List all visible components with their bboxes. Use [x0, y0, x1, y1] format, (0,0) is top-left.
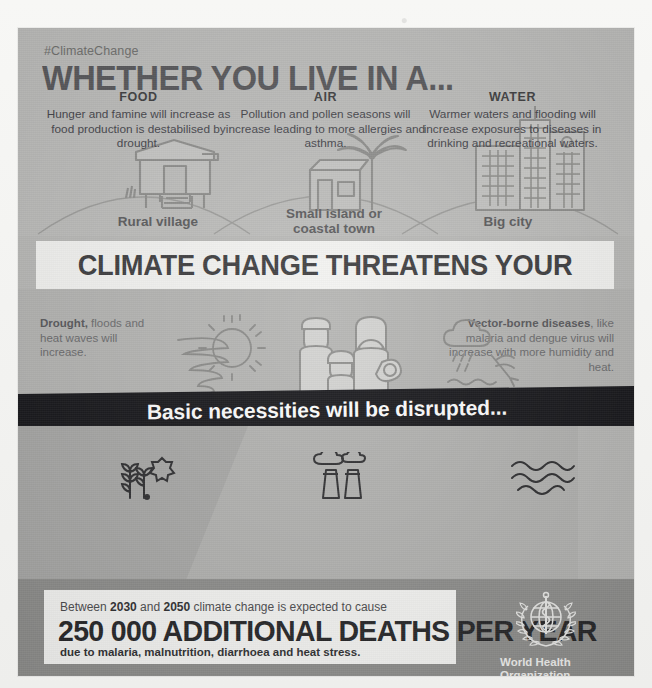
column-water: WATER Warmer waters and flooding will in…	[410, 90, 615, 151]
page-background: #ClimateChange WHETHER YOU LIVE IN A...	[0, 0, 652, 688]
column-food-title: FOOD	[36, 90, 241, 104]
main-banner: CLIMATE CHANGE THREATENS YOUR HEALTH	[36, 241, 614, 289]
column-water-text: Warmer waters and flooding will increase…	[410, 107, 615, 151]
column-food-text: Hunger and famine will increase as food …	[36, 107, 241, 151]
who-logo-block: World Health Organization	[486, 590, 606, 676]
footer-lead-mid: and	[137, 600, 164, 614]
sun-tornado-icon	[168, 314, 280, 398]
column-air-title: AIR	[223, 90, 428, 104]
column-water-title: WATER	[410, 90, 615, 104]
tone-overlay-right	[578, 426, 634, 586]
footer-lead-pre: Between	[60, 600, 110, 614]
waves-icon	[506, 456, 580, 502]
tone-overlay-left	[18, 426, 248, 586]
rain-cloud-mosquito-icon	[438, 316, 536, 398]
footer-lead-post: climate change is expected to cause	[190, 600, 387, 614]
column-air: AIR Pollution and pollen seasons will in…	[223, 90, 428, 151]
column-food: FOOD Hunger and famine will increase as …	[36, 90, 241, 151]
footer-year-start: 2030	[110, 600, 137, 614]
footer-statistic-box: Between 2030 and 2050 climate change is …	[44, 590, 456, 664]
drought-text: Drought, floods and heat waves will incr…	[40, 316, 160, 360]
wheat-sun-icon	[114, 452, 184, 502]
location-label-city: Big city	[428, 214, 588, 229]
location-label-island: Small island or coastal town	[254, 206, 414, 236]
infographic-poster: #ClimateChange WHETHER YOU LIVE IN A...	[18, 28, 634, 676]
factory-smoke-icon	[310, 452, 378, 502]
footer-lead-line: Between 2030 and 2050 climate change is …	[60, 600, 387, 614]
footer-subline: due to malaria, malnutrition, diarrhoea …	[60, 646, 360, 658]
footer-year-end: 2050	[163, 600, 190, 614]
who-organization-name: World Health Organization	[486, 656, 606, 676]
drought-text-bold: Drought,	[40, 317, 88, 329]
who-emblem-icon	[516, 590, 576, 650]
necessities-section	[18, 426, 634, 586]
location-label-rural: Rural village	[78, 214, 238, 229]
column-air-text: Pollution and pollen seasons will increa…	[223, 107, 428, 151]
hashtag-label: #ClimateChange	[44, 44, 139, 58]
